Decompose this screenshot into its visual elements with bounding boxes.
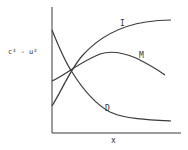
- series-D-curve: [52, 30, 171, 121]
- series-I-curve: [52, 20, 171, 106]
- y-axis-label: c² - u²: [8, 48, 38, 56]
- label-M: M: [139, 51, 144, 60]
- label-I: I: [120, 19, 125, 28]
- label-D: D: [105, 104, 110, 113]
- chart: I M D c² - u² x: [0, 0, 188, 150]
- x-axis-label: x: [111, 136, 116, 145]
